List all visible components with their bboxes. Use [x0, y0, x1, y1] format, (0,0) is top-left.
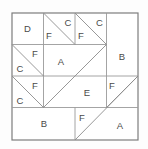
- label-a-center: A: [58, 56, 65, 67]
- label-f-left-upper: F: [32, 48, 38, 59]
- label-f-left-lower: F: [32, 80, 38, 91]
- label-f-top-row-2: F: [78, 30, 84, 41]
- label-f-bottom: F: [79, 112, 85, 123]
- dissection-figure: DFCFCBFCAFCEFBFA: [0, 0, 148, 149]
- label-c-left-lower: C: [17, 95, 24, 106]
- label-b-bottom: B: [41, 118, 47, 129]
- label-b-right: B: [119, 51, 125, 62]
- label-d-top-left: D: [24, 23, 31, 34]
- label-c-left-upper: C: [17, 63, 24, 74]
- label-a-bottom-right: A: [117, 120, 124, 131]
- dissection-diagram: DFCFCBFCAFCEFBFA: [0, 0, 148, 149]
- label-f-right-lower: F: [109, 80, 115, 91]
- label-e-center-right: E: [84, 87, 90, 98]
- label-c-top-row-1: C: [65, 17, 72, 28]
- label-c-top-row-2: C: [96, 17, 103, 28]
- label-f-top-row-1: F: [46, 30, 52, 41]
